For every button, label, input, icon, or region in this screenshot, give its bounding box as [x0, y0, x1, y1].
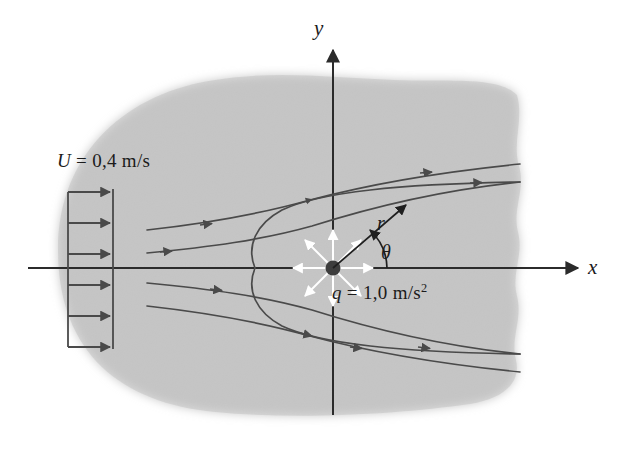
freestream-symbol: U [57, 150, 71, 171]
y-axis-label: y [314, 16, 323, 41]
source-strength-exponent: 2 [421, 281, 427, 295]
angular-coordinate-label: θ [381, 241, 391, 264]
freestream-velocity-label: U = 0,4 m/s [57, 150, 150, 172]
source-strength-label: q = 1,0 m/s2 [332, 281, 427, 304]
source-strength-symbol: q [332, 282, 342, 303]
radial-coordinate-label: r [377, 212, 385, 235]
flow-diagram-canvas [0, 0, 622, 462]
fluid-flow-figure: U = 0,4 m/s q = 1,0 m/s2 x y r θ [0, 0, 622, 462]
x-axis-label: x [588, 255, 597, 280]
